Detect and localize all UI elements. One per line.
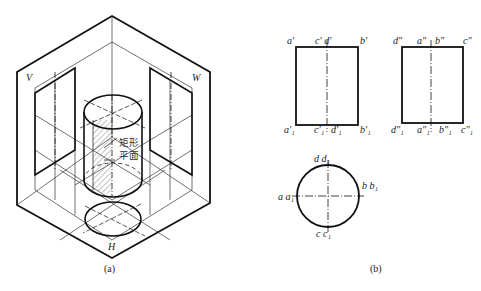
- label-d-dprime: d″: [393, 35, 403, 46]
- label-a-a1: a a₁: [278, 191, 294, 202]
- label-cd-prime: c′ d′: [315, 35, 332, 46]
- caption-b: (b): [370, 263, 382, 275]
- label-b-prime: b′: [360, 35, 368, 46]
- v-plane-label: V: [26, 72, 34, 83]
- caption-a: (a): [104, 263, 115, 275]
- front-view: [296, 40, 358, 132]
- isometric-view: [17, 16, 210, 258]
- rectangle-plane-hatch: [93, 120, 112, 195]
- label-b1-prime: b′₁: [360, 124, 371, 135]
- label-a-dprime: a″: [417, 35, 427, 46]
- label-c-dprime: c″: [463, 35, 472, 46]
- top-view: [292, 160, 364, 232]
- annotation-line1: 矩形: [119, 137, 139, 148]
- annotation-line2: 平面: [119, 150, 139, 161]
- outer-hexagon: [17, 16, 210, 258]
- h-plane-label: H: [107, 241, 116, 252]
- label-c1-dprime: c″₁: [461, 124, 473, 135]
- label-a1-prime: a′₁: [284, 124, 295, 135]
- label-a1-dprime: a″₁: [417, 124, 430, 135]
- h-projection: [85, 202, 141, 236]
- label-c1-prime: c′₁: [314, 124, 324, 135]
- label-b-dprime: b″: [435, 35, 445, 46]
- label-d1-prime: d′₁: [331, 124, 342, 135]
- w-plane-label: W: [192, 72, 202, 83]
- label-b1-dprime: b″₁: [439, 124, 452, 135]
- label-a-prime: a′: [287, 35, 295, 46]
- label-c-c1: c c₁: [316, 228, 331, 239]
- label-d-d1: d d₁: [314, 153, 330, 164]
- side-view: [402, 40, 463, 132]
- projection-diagram: V W H 矩形 平面 (a) a′ c′ d′ b′ a′₁ c′₁ d′₁ …: [0, 0, 481, 291]
- label-d1-dprime: d″₁: [391, 124, 404, 135]
- label-b-b1: b b₁: [362, 180, 378, 191]
